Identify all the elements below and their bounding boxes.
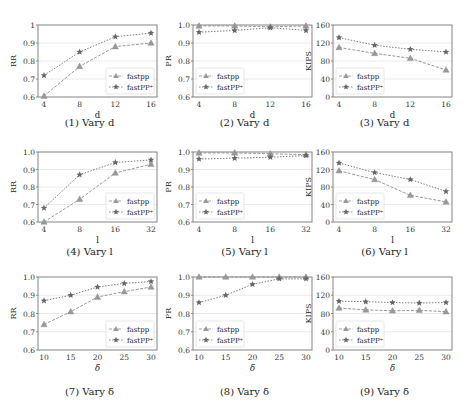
y-axis-label: RR bbox=[9, 307, 18, 320]
legend: fastppfastPP⁺ bbox=[336, 321, 384, 347]
chart-panel-4: 0.60.70.80.91.0481632lRRfastppfastPP⁺(4)… bbox=[9, 148, 157, 257]
y-tick-label: 1.0 bbox=[178, 21, 190, 30]
y-tick-label: 80 bbox=[320, 183, 330, 192]
legend-label: fastPP⁺ bbox=[217, 337, 244, 345]
triangle-marker bbox=[121, 288, 127, 294]
star-marker bbox=[276, 275, 282, 281]
star-marker bbox=[112, 159, 118, 165]
x-tick-label: 16 bbox=[406, 225, 416, 234]
legend-label: fastPP⁺ bbox=[127, 209, 154, 217]
star-marker bbox=[41, 297, 47, 303]
y-tick-label: 1.0 bbox=[178, 148, 190, 157]
star-marker bbox=[336, 160, 342, 166]
x-tick-label: 32 bbox=[301, 225, 311, 234]
y-tick-label: 0.7 bbox=[23, 75, 35, 84]
x-tick-label: 8 bbox=[77, 225, 82, 234]
triangle-marker bbox=[112, 170, 118, 176]
legend: fastppfastPP⁺ bbox=[106, 68, 154, 94]
star-marker bbox=[443, 299, 449, 305]
chart-panel-3: 04080120160481216dKIPSfastppfastPP⁺(3) V… bbox=[304, 21, 452, 128]
y-tick-label: 1.0 bbox=[23, 273, 35, 282]
legend-label: fastpp bbox=[357, 326, 380, 334]
chart-caption: (3) Vary d bbox=[360, 117, 410, 128]
x-tick-label: 4 bbox=[197, 225, 202, 234]
triangle-marker bbox=[416, 307, 422, 313]
y-axis-label: KIPS bbox=[304, 304, 313, 324]
star-marker bbox=[443, 188, 449, 194]
chart-caption: (4) Vary l bbox=[66, 246, 112, 257]
series-line-fastpp bbox=[199, 26, 306, 27]
series-line-fastpp bbox=[339, 48, 446, 71]
x-tick-label: 25 bbox=[274, 353, 284, 362]
star-marker bbox=[112, 33, 118, 39]
x-tick-label: 8 bbox=[232, 100, 237, 109]
y-tick-label: 40 bbox=[320, 75, 330, 84]
series-line-fastpp-plus bbox=[199, 28, 306, 33]
star-marker bbox=[363, 298, 369, 304]
legend: fastppfastPP⁺ bbox=[336, 68, 384, 94]
y-tick-label: 0.7 bbox=[178, 328, 190, 337]
chart-panel-2: 0.60.70.80.91.0481216dPRfastppfastPP⁺(2)… bbox=[164, 21, 312, 128]
y-axis-label: PR bbox=[164, 54, 173, 66]
x-axis-label: δ bbox=[95, 363, 100, 373]
y-tick-label: 0.8 bbox=[178, 183, 190, 192]
triangle-marker bbox=[148, 40, 154, 46]
legend: fastppfastPP⁺ bbox=[106, 193, 154, 219]
legend-label: fastpp bbox=[357, 73, 380, 81]
x-tick-label: 20 bbox=[388, 353, 398, 362]
legend-label: fastpp bbox=[357, 198, 380, 206]
star-marker bbox=[416, 300, 422, 306]
triangle-marker bbox=[41, 321, 47, 327]
legend-label: fastpp bbox=[127, 198, 150, 206]
star-marker bbox=[249, 281, 255, 287]
triangle-marker bbox=[41, 219, 47, 225]
star-marker bbox=[196, 156, 202, 162]
x-tick-label: 15 bbox=[361, 353, 371, 362]
triangle-marker bbox=[77, 196, 83, 202]
star-marker bbox=[148, 30, 154, 36]
legend-label: fastpp bbox=[127, 73, 150, 81]
x-tick-label: 4 bbox=[337, 225, 342, 234]
y-axis-label: PR bbox=[164, 180, 173, 192]
chart-caption: (6) Vary l bbox=[361, 246, 407, 257]
star-marker bbox=[223, 292, 229, 298]
x-axis-label: l bbox=[96, 235, 99, 245]
star-marker bbox=[303, 275, 309, 281]
y-tick-label: 0.6 bbox=[178, 346, 190, 355]
y-axis-label: RR bbox=[9, 180, 18, 193]
star-marker bbox=[336, 298, 342, 304]
y-tick-label: 0.9 bbox=[23, 166, 35, 175]
y-tick-label: 0.8 bbox=[23, 183, 35, 192]
y-tick-label: 0.7 bbox=[23, 328, 35, 337]
y-tick-label: 1 bbox=[30, 21, 35, 30]
x-tick-label: 15 bbox=[221, 353, 231, 362]
y-tick-label: 0.8 bbox=[178, 310, 190, 319]
chart-caption: (9) Vary δ bbox=[360, 386, 409, 397]
y-axis-label: KIPS bbox=[304, 177, 313, 197]
x-tick-label: 10 bbox=[39, 353, 49, 362]
legend-label: fastpp bbox=[217, 198, 240, 206]
triangle-marker bbox=[336, 44, 342, 50]
chart-caption: (5) Vary l bbox=[221, 246, 267, 257]
x-tick-label: 12 bbox=[406, 100, 416, 109]
figure-grid: 0.60.70.80.91481216dRRfastppfastPP⁺(1) V… bbox=[0, 0, 471, 408]
series-line-fastpp bbox=[199, 153, 306, 155]
chart-caption: (1) Vary d bbox=[65, 117, 115, 128]
x-tick-label: 30 bbox=[301, 353, 311, 362]
legend: fastppfastPP⁺ bbox=[196, 321, 244, 347]
y-tick-label: 0.6 bbox=[23, 346, 35, 355]
legend: fastppfastPP⁺ bbox=[106, 321, 154, 347]
x-axis-label: δ bbox=[390, 363, 395, 373]
x-tick-label: 20 bbox=[248, 353, 258, 362]
star-marker bbox=[68, 292, 74, 298]
star-marker bbox=[303, 152, 309, 158]
star-marker bbox=[443, 49, 449, 55]
legend-label: fastPP⁺ bbox=[357, 84, 384, 92]
y-tick-label: 0.9 bbox=[178, 39, 190, 48]
chart-panel-1: 0.60.70.80.91481216dRRfastppfastPP⁺(1) V… bbox=[9, 21, 157, 128]
star-marker bbox=[407, 46, 413, 52]
x-tick-label: 16 bbox=[301, 100, 311, 109]
triangle-marker bbox=[148, 161, 154, 167]
legend: fastppfastPP⁺ bbox=[196, 68, 244, 94]
y-tick-label: 1.0 bbox=[178, 273, 190, 282]
